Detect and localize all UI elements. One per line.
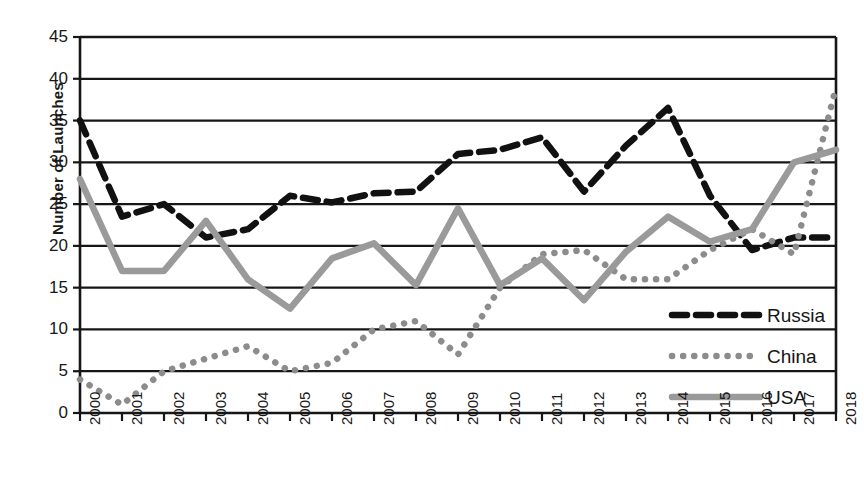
x-tick-label: 2011: [548, 393, 565, 425]
x-tick-label: 2002: [170, 392, 187, 425]
x-tick-label: 2009: [464, 392, 481, 425]
x-tick-label: 2017: [800, 392, 817, 425]
legend-label-russia: Russia: [767, 305, 826, 326]
x-tick-label: 2015: [716, 392, 733, 425]
x-tick-label: 2005: [296, 392, 313, 425]
y-tick-label: 10: [32, 319, 68, 339]
x-tick-label: 2001: [128, 392, 145, 425]
x-tick-label: 2013: [632, 392, 649, 425]
grid-lines: [80, 37, 836, 371]
x-tick-label: 2007: [380, 392, 397, 425]
axis-tick-marks: [73, 37, 836, 421]
y-tick-label: 20: [32, 236, 68, 256]
y-tick-label: 0: [32, 403, 68, 423]
y-tick-label: 40: [32, 69, 68, 89]
x-tick-label: 2012: [590, 392, 607, 425]
x-tick-label: 2000: [86, 392, 103, 425]
y-tick-label: 15: [32, 278, 68, 298]
y-tick-label: 5: [32, 361, 68, 381]
x-tick-label: 2010: [506, 392, 523, 425]
launches-line-chart: Number of Launches 051015202530354045 20…: [0, 0, 864, 492]
x-tick-label: 2014: [674, 392, 691, 425]
x-tick-label: 2003: [212, 392, 229, 425]
series-line-usa: [80, 150, 836, 309]
x-tick-label: 2004: [254, 392, 271, 425]
y-tick-label: 30: [32, 152, 68, 172]
x-tick-label: 2016: [758, 392, 775, 425]
y-tick-label: 45: [32, 27, 68, 47]
x-tick-label: 2018: [842, 392, 859, 425]
y-tick-label: 35: [32, 111, 68, 131]
legend-label-china: China: [767, 346, 817, 367]
y-tick-label: 25: [32, 194, 68, 214]
series-line-russia: [80, 108, 836, 250]
x-tick-label: 2008: [422, 392, 439, 425]
x-tick-label: 2006: [338, 392, 355, 425]
